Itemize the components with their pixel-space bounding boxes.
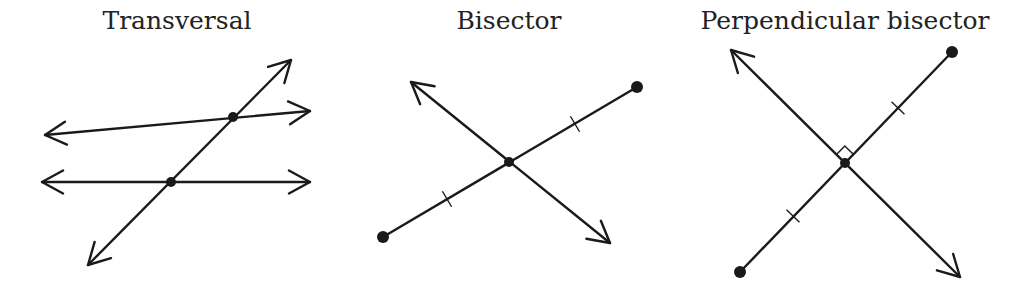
perpendicular-bisector-right-angle-icon (836, 146, 853, 155)
perpendicular-bisector-endpoint-a (734, 266, 746, 278)
transversal-transversal-line (88, 60, 291, 265)
transversal-lower-intersection-point (166, 177, 176, 187)
bisector-endpoint-b (631, 81, 643, 93)
diagram-canvas (0, 0, 1019, 290)
bisector-midpoint (504, 157, 514, 167)
bisector-tick-mark-0 (442, 191, 451, 206)
geometry-diagram: Transversal Bisector Perpendicular bisec… (0, 0, 1019, 290)
perpendicular-bisector-midpoint (840, 158, 850, 168)
bisector-tick-mark-1 (570, 116, 579, 131)
transversal-upper-intersection-point (228, 112, 238, 122)
bisector-endpoint-a (377, 231, 389, 243)
transversal-upper-line (45, 111, 310, 135)
perpendicular-bisector-endpoint-b (946, 46, 958, 58)
